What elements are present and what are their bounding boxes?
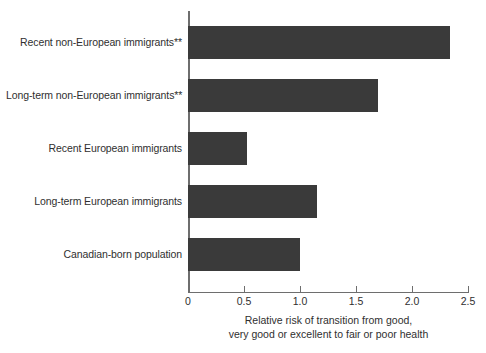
category-label: Long-term non-European immigrants** xyxy=(6,89,182,101)
bar xyxy=(188,79,378,112)
x-tick-label: 2.5 xyxy=(461,295,476,307)
bar xyxy=(188,238,300,271)
x-tick xyxy=(356,286,357,292)
x-tick-label: 0 xyxy=(185,295,191,307)
bar xyxy=(188,185,317,218)
x-tick xyxy=(188,286,189,292)
bar-chart-figure: Recent non-European immigrants** Long-te… xyxy=(0,0,486,353)
bar xyxy=(188,132,247,165)
category-label: Canadian-born population xyxy=(6,248,182,260)
x-tick-label: 2.0 xyxy=(405,295,420,307)
x-tick xyxy=(300,286,301,292)
category-label: Recent non-European immigrants** xyxy=(6,36,182,48)
x-tick-label: 1.5 xyxy=(349,295,364,307)
category-label: Recent European immigrants xyxy=(6,142,182,154)
category-label: Long-term European immigrants xyxy=(6,195,182,207)
x-tick xyxy=(244,286,245,292)
x-axis-title: Relative risk of transition from good, v… xyxy=(188,314,469,341)
bar xyxy=(188,26,450,59)
x-tick xyxy=(468,286,469,292)
x-tick xyxy=(412,286,413,292)
x-axis-title-line-2: very good or excellent to fair or poor h… xyxy=(188,328,469,342)
x-axis-title-line-1: Relative risk of transition from good, xyxy=(188,314,469,328)
x-axis-line xyxy=(188,292,469,294)
x-tick-label: 0.5 xyxy=(237,295,252,307)
x-tick-label: 1.0 xyxy=(293,295,308,307)
